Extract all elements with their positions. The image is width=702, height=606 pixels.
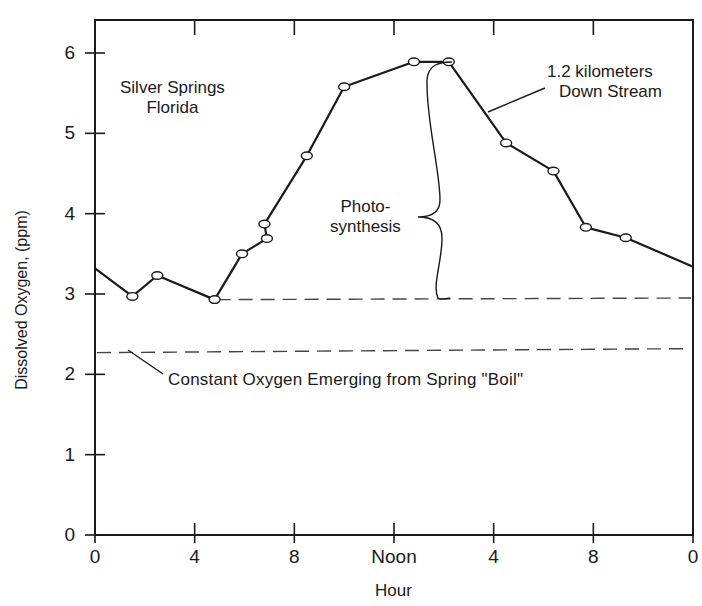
y-tick-label: 6 <box>55 43 75 62</box>
series-direction: Down Stream <box>547 82 662 102</box>
y-axis-label: Dissolved Oxygen, (ppm) <box>13 210 31 390</box>
site-name: Silver Springs <box>120 78 225 98</box>
photosynthesis-annotation: Photo- synthesis <box>330 197 401 238</box>
x-tick-label: Noon <box>364 547 424 566</box>
x-tick-label: 4 <box>165 547 225 566</box>
data-point-marker <box>339 83 350 91</box>
data-point-marker <box>408 58 419 66</box>
x-tick-label: 8 <box>264 547 324 566</box>
data-point-marker <box>261 235 272 243</box>
x-tick-label: 0 <box>65 547 125 566</box>
data-point-marker <box>259 220 270 228</box>
data-point-marker <box>548 167 559 175</box>
data-point-marker <box>580 224 591 232</box>
data-point-marker <box>152 272 163 280</box>
y-tick-label: 1 <box>55 445 75 464</box>
photosynthesis-brace <box>418 62 452 299</box>
x-tick-label: 0 <box>663 547 702 566</box>
y-tick-label: 5 <box>55 123 75 142</box>
y-tick-label: 3 <box>55 284 75 303</box>
x-tick-label: 4 <box>464 547 524 566</box>
series-annotation: 1.2 kilometers Down Stream <box>547 62 662 103</box>
photosynthesis-line1: Photo- <box>330 197 401 217</box>
baseline-dashed-lines <box>97 298 691 353</box>
data-point-marker <box>209 296 220 304</box>
data-point-marker <box>501 139 512 147</box>
site-state: Florida <box>120 98 225 118</box>
x-axis-label: Hour <box>375 582 412 599</box>
y-tick-label: 2 <box>55 364 75 383</box>
x-tick-label: 8 <box>563 547 623 566</box>
site-annotation: Silver Springs Florida <box>120 78 225 119</box>
boil-leader-line <box>128 350 163 374</box>
y-tick-label: 4 <box>55 204 75 223</box>
y-tick-label: 0 <box>55 525 75 544</box>
series-leader-line <box>488 88 545 112</box>
boil-annotation: Constant Oxygen Emerging from Spring "Bo… <box>168 371 523 388</box>
data-point-marker <box>127 293 138 301</box>
data-point-marker <box>620 234 631 242</box>
series-distance: 1.2 kilometers <box>547 62 662 82</box>
dashed-baseline <box>97 349 691 353</box>
photosynthesis-line2: synthesis <box>330 217 401 237</box>
dashed-baseline <box>217 298 691 300</box>
data-point-marker <box>301 152 312 160</box>
data-point-marker <box>237 250 248 258</box>
